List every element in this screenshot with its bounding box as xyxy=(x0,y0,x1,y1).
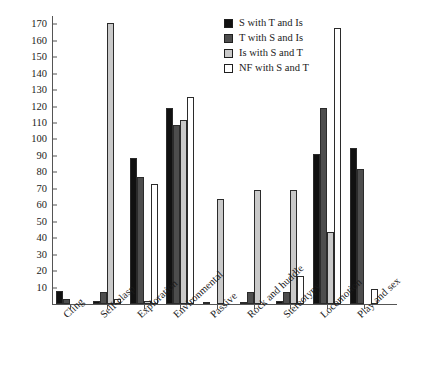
bar xyxy=(320,108,327,304)
y-tick-label: 30 xyxy=(37,249,53,260)
legend-item: T with S and Is xyxy=(224,33,309,44)
bar xyxy=(290,190,297,304)
bar xyxy=(276,301,283,304)
bar xyxy=(180,120,187,304)
y-tick-label: 170 xyxy=(31,19,52,30)
y-tick-label: 80 xyxy=(37,167,53,178)
bar-group xyxy=(345,16,382,304)
chart-legend: S with T and IsT with S and IsIs with S … xyxy=(224,18,309,78)
y-tick-label: 160 xyxy=(31,35,52,46)
bar-groups xyxy=(52,16,382,304)
bar-group xyxy=(89,16,126,304)
y-tick-label: 110 xyxy=(32,118,52,129)
bar xyxy=(203,302,210,304)
bar xyxy=(151,184,158,304)
legend-item: Is with S and T xyxy=(224,48,309,59)
bar xyxy=(240,302,247,304)
legend-item: S with T and Is xyxy=(224,18,309,29)
bar-chart: 1020304050607080901001101201301401501601… xyxy=(0,0,431,369)
bar xyxy=(130,158,137,304)
bar-group xyxy=(125,16,162,304)
y-tick-label: 130 xyxy=(31,85,52,96)
bar-group xyxy=(309,16,346,304)
legend-item: NF with S and T xyxy=(224,63,309,74)
bar-group xyxy=(162,16,199,304)
y-tick-label: 70 xyxy=(37,184,53,195)
bar xyxy=(247,292,254,304)
y-tick-label: 40 xyxy=(37,233,53,244)
bar xyxy=(327,232,334,304)
y-tick-label: 60 xyxy=(37,200,53,211)
y-tick-label: 10 xyxy=(37,282,53,293)
bar-group xyxy=(52,16,89,304)
legend-item-label: S with T and Is xyxy=(239,18,303,29)
legend-item-label: NF with S and T xyxy=(239,63,309,74)
legend-item-label: Is with S and T xyxy=(239,48,303,59)
plot-area xyxy=(52,16,382,304)
bar xyxy=(173,125,180,304)
bar xyxy=(283,292,290,304)
y-tick-label: 150 xyxy=(31,52,52,63)
bar xyxy=(187,97,194,304)
bar xyxy=(56,291,63,304)
y-tick-label: 90 xyxy=(37,151,53,162)
white-swatch xyxy=(224,64,233,73)
bar xyxy=(217,199,224,304)
light-gray-swatch xyxy=(224,49,233,58)
bar xyxy=(93,301,100,304)
y-tick-label: 120 xyxy=(31,101,52,112)
bar xyxy=(137,177,144,304)
bar xyxy=(166,108,173,304)
dark-gray-swatch xyxy=(224,34,233,43)
bar xyxy=(107,23,114,304)
black-swatch xyxy=(224,19,233,28)
y-tick-label: 20 xyxy=(37,266,53,277)
bar xyxy=(254,190,261,304)
bar xyxy=(334,28,341,304)
bar xyxy=(100,292,107,304)
y-tick-label: 100 xyxy=(31,134,52,145)
legend-item-label: T with S and Is xyxy=(239,33,303,44)
y-tick-label: 50 xyxy=(37,216,53,227)
y-tick-label: 140 xyxy=(31,68,52,79)
